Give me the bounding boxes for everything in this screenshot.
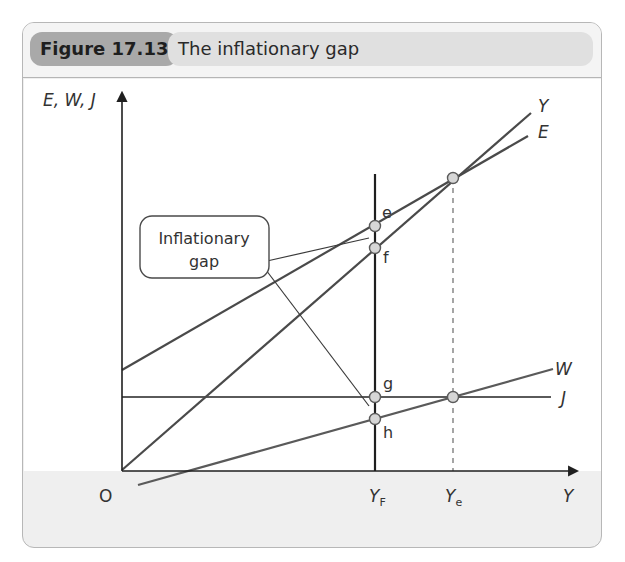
point-f-label: f <box>383 248 389 267</box>
point-g-label: g <box>383 374 393 393</box>
figure-panel: Figure 17.13 The inflationary gap <box>22 22 602 548</box>
point-h-marker <box>370 414 381 425</box>
point-g-marker <box>370 392 381 403</box>
chart-area: Inflationary gap e f g h Y E W J E, W, J… <box>23 79 601 547</box>
line-y-label: Y <box>538 96 550 116</box>
yf-sub: F <box>379 496 385 509</box>
point-h-label: h <box>383 423 393 442</box>
origin-label: O <box>99 486 112 506</box>
ye-tick-label: Ye <box>445 486 462 509</box>
y-axis-label: E, W, J <box>43 90 96 110</box>
point-f-marker <box>370 243 381 254</box>
point-e-marker <box>370 221 381 232</box>
yf-tick-label: YF <box>369 486 386 509</box>
inflationary-gap-diagram: Inflationary gap e f g h Y E W J E, W, J… <box>22 22 602 548</box>
callout-text-line1: Inflationary <box>158 229 249 248</box>
point-e-label: e <box>382 203 392 222</box>
x-axis-label: Y <box>563 486 575 506</box>
line-e-label: E <box>538 122 549 142</box>
equilibrium-wj-marker <box>448 392 459 403</box>
plot-background <box>24 79 601 471</box>
callout-text-line2: gap <box>189 252 219 271</box>
line-w-label: W <box>555 359 573 379</box>
ye-sub: e <box>455 496 462 509</box>
equilibrium-ey-marker <box>448 173 459 184</box>
